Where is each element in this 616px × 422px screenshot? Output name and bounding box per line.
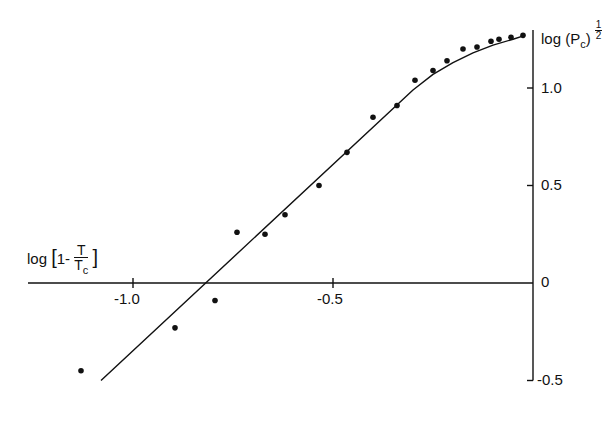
data-point: [78, 368, 84, 374]
y-tick-label: 0: [541, 273, 549, 290]
x-label-bracket-close: ]: [93, 246, 99, 268]
y-tick-label: 1.0: [541, 79, 562, 96]
fit-line: [101, 35, 525, 380]
chart-plot-area: [0, 0, 616, 422]
fit-curve: [101, 35, 525, 380]
x-tick-label: -1.0: [114, 290, 140, 307]
data-point: [394, 103, 400, 109]
x-tick-label: -0.5: [317, 290, 343, 307]
data-point: [172, 325, 178, 331]
frac-num: T: [74, 243, 88, 258]
frac-den: Tc: [74, 258, 88, 277]
y-axis-label: log (Pc) 1 2: [541, 30, 602, 51]
y-tick-label: 0.5: [541, 176, 562, 193]
data-point: [262, 231, 268, 237]
data-point: [444, 58, 450, 64]
exp-den: 2: [595, 31, 603, 41]
data-point: [370, 114, 376, 120]
x-axis-label: log [[1-1- T Tc ]: [27, 243, 98, 277]
data-point: [430, 68, 436, 74]
y-label-exponent: 1 2: [595, 20, 603, 41]
data-point: [508, 35, 514, 41]
data-point: [344, 150, 350, 156]
data-point: [474, 44, 480, 50]
y-tick-label: -0.5: [537, 371, 563, 388]
data-point: [496, 36, 502, 42]
x-label-one: 1-: [57, 250, 70, 267]
data-point: [316, 183, 322, 189]
data-point: [460, 46, 466, 52]
x-label-fraction: T Tc: [74, 243, 88, 277]
x-label-log: log: [27, 250, 47, 267]
data-point: [520, 33, 526, 39]
y-label-close: ): [586, 30, 591, 47]
data-point: [234, 230, 240, 236]
data-point: [488, 38, 494, 44]
data-point: [212, 298, 218, 304]
axes: [28, 30, 533, 381]
frac-den-sub: c: [83, 264, 89, 276]
data-point: [412, 77, 418, 83]
frac-den-t: T: [74, 257, 83, 273]
y-label-text: log (P: [541, 30, 580, 47]
data-points: [78, 33, 526, 374]
data-point: [282, 212, 288, 218]
